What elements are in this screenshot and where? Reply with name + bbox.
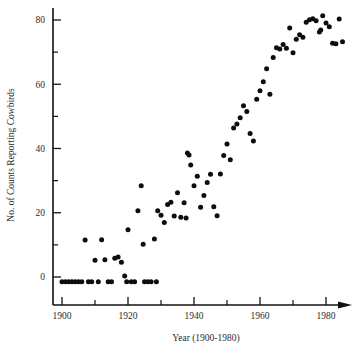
- data-point: [241, 103, 246, 108]
- data-point: [291, 50, 296, 55]
- data-point: [116, 255, 121, 260]
- data-point: [175, 190, 180, 195]
- data-point: [184, 215, 189, 220]
- data-point: [154, 279, 159, 284]
- data-point: [231, 125, 236, 130]
- data-point: [318, 27, 323, 32]
- data-point: [182, 200, 187, 205]
- y-axis-tick-label: 80: [36, 15, 46, 25]
- data-point: [89, 279, 94, 284]
- data-point: [96, 279, 101, 284]
- y-axis-tick-label: 0: [40, 272, 45, 282]
- scatter-plot-figure: 02040608019001920194019601980 Year (1900…: [0, 0, 362, 351]
- data-point: [211, 204, 216, 209]
- data-point: [228, 157, 233, 162]
- x-axis-tick-label: 1940: [185, 311, 204, 321]
- data-point: [122, 274, 127, 279]
- data-point: [135, 208, 140, 213]
- data-point: [337, 17, 342, 22]
- data-point: [155, 208, 160, 213]
- x-axis-arrow-icon: [338, 301, 352, 308]
- data-point: [149, 279, 154, 284]
- data-point: [139, 183, 144, 188]
- data-point: [264, 66, 269, 71]
- axis-labels-layer: 02040608019001920194019601980: [36, 15, 336, 321]
- data-point: [284, 46, 289, 51]
- data-point: [141, 242, 146, 247]
- data-point: [109, 279, 114, 284]
- data-point: [327, 24, 332, 29]
- x-axis-tick-label: 1980: [317, 311, 336, 321]
- data-point: [271, 55, 276, 60]
- data-point: [201, 193, 206, 198]
- y-axis-title: No. of Counts Reporting Cowbirds: [6, 88, 16, 222]
- data-point: [221, 153, 226, 158]
- data-point: [83, 238, 88, 243]
- data-point: [238, 115, 243, 120]
- data-point: [205, 180, 210, 185]
- axes-layer: [53, 8, 352, 309]
- data-point: [162, 220, 167, 225]
- data-point: [340, 39, 345, 44]
- data-point: [208, 172, 213, 177]
- data-point: [333, 41, 338, 46]
- data-point: [126, 227, 131, 232]
- data-point: [294, 37, 299, 42]
- data-point: [314, 18, 319, 23]
- data-point: [93, 258, 98, 263]
- data-point: [124, 279, 129, 284]
- data-point: [287, 26, 292, 31]
- data-point: [320, 13, 325, 18]
- x-axis-tick-label: 1960: [251, 311, 270, 321]
- x-axis-tick-label: 1920: [119, 311, 138, 321]
- data-point: [215, 213, 220, 218]
- data-point: [99, 237, 104, 242]
- data-point: [132, 279, 137, 284]
- data-point: [258, 88, 263, 93]
- data-point: [102, 257, 107, 262]
- data-point: [261, 79, 266, 84]
- data-point: [79, 279, 84, 284]
- x-axis-title: Year (1900-1980): [172, 333, 239, 344]
- data-point: [277, 46, 282, 51]
- chart-canvas: 02040608019001920194019601980 Year (1900…: [0, 0, 362, 351]
- data-point: [300, 35, 305, 40]
- data-point: [244, 109, 249, 114]
- data-point: [254, 97, 259, 102]
- x-axis-tick-label: 1900: [53, 311, 72, 321]
- data-point: [152, 237, 157, 242]
- data-point: [198, 205, 203, 210]
- data-point: [192, 183, 197, 188]
- data-point: [248, 131, 253, 136]
- data-point: [172, 213, 177, 218]
- data-point: [119, 260, 124, 265]
- data-point: [187, 152, 192, 157]
- data-point: [234, 122, 239, 127]
- data-point: [188, 162, 193, 167]
- data-point: [324, 20, 329, 25]
- data-point: [218, 171, 223, 176]
- data-point: [225, 142, 230, 147]
- data-point: [168, 200, 173, 205]
- data-point: [159, 213, 164, 218]
- data-point: [251, 139, 256, 144]
- data-point: [267, 92, 272, 97]
- y-axis-tick-label: 40: [36, 144, 46, 154]
- y-axis-tick-label: 60: [36, 80, 46, 90]
- y-axis-tick-label: 20: [36, 208, 46, 218]
- data-point: [195, 174, 200, 179]
- data-point: [281, 42, 286, 47]
- data-point: [178, 215, 183, 220]
- data-points-layer: [60, 13, 346, 284]
